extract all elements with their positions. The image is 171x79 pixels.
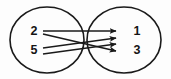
codomain-element-3: 3 [134, 43, 141, 57]
mapping-diagram-canvas: 2 5 1 3 [0, 0, 171, 79]
codomain-element-1: 1 [134, 24, 141, 38]
arrow-5-to-1 [43, 38, 116, 48]
mapping-diagram: 2 5 1 3 [0, 0, 171, 79]
domain-element-2: 2 [31, 24, 38, 38]
domain-element-5: 5 [31, 43, 38, 57]
domain-set-circle [10, 7, 84, 73]
